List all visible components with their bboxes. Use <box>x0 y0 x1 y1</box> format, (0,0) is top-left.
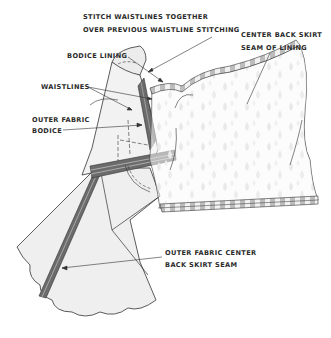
label-center-back-lining-line2: SEAM OF LINING <box>241 45 307 52</box>
label-waistlines: WAISTLINES <box>41 84 90 91</box>
label-outer-bodice-line1: OUTER FABRIC <box>32 117 90 124</box>
label-center-back-lining-line1: CENTER BACK SKIRT <box>241 32 322 39</box>
label-stitch-waistlines-line1: STITCH WAISTLINES TOGETHER <box>83 14 208 21</box>
sewing-diagram: STITCH WAISTLINES TOGETHER OVER PREVIOUS… <box>0 0 331 338</box>
label-bodice-lining: BODICE LINING <box>67 53 127 60</box>
lining-skirt <box>150 40 318 212</box>
label-outer-center-back-line2: BACK SKIRT SEAM <box>165 262 237 269</box>
label-stitch-waistlines-line2: OVER PREVIOUS WAISTLINE STITCHING <box>83 27 240 34</box>
outer-fabric-skirt <box>17 168 160 316</box>
label-outer-center-back-line1: OUTER FABRIC CENTER <box>165 250 256 257</box>
label-outer-bodice-line2: BODICE <box>32 128 62 135</box>
